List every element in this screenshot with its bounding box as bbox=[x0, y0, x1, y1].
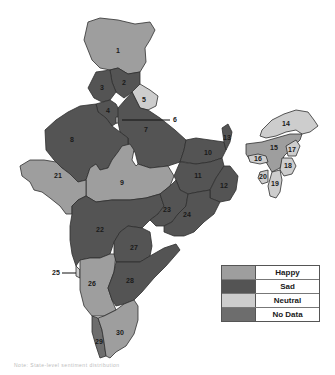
state-label-14: 14 bbox=[282, 120, 290, 127]
state-label-13: 13 bbox=[223, 134, 231, 141]
state-label-15: 15 bbox=[270, 144, 278, 151]
legend-swatch-sad bbox=[222, 280, 256, 293]
legend-item-sad: Sad bbox=[222, 279, 319, 293]
legend-label-sad: Sad bbox=[256, 280, 319, 293]
legend-item-happy: Happy bbox=[222, 266, 319, 279]
legend-label-no-data: No Data bbox=[256, 308, 319, 321]
state-label-26: 26 bbox=[88, 280, 96, 287]
state-label-30: 30 bbox=[116, 329, 124, 336]
map-caption: Note: State-level sentiment distribution bbox=[14, 362, 120, 368]
state-label-22: 22 bbox=[96, 226, 104, 233]
state-label-9: 9 bbox=[120, 179, 124, 186]
state-label-8: 8 bbox=[70, 136, 74, 143]
state-label-1: 1 bbox=[116, 47, 120, 54]
state-label-27: 27 bbox=[130, 244, 138, 251]
state-label-7: 7 bbox=[144, 126, 148, 133]
legend-label-happy: Happy bbox=[256, 266, 319, 279]
state-label-12: 12 bbox=[220, 182, 228, 189]
legend-swatch-happy bbox=[222, 266, 256, 279]
state-label-6: 6 bbox=[173, 116, 177, 123]
state-label-3: 3 bbox=[100, 84, 104, 91]
legend: Happy Sad Neutral No Data bbox=[221, 265, 320, 322]
legend-item-neutral: Neutral bbox=[222, 293, 319, 307]
state-label-10: 10 bbox=[204, 149, 212, 156]
state-label-18: 18 bbox=[284, 162, 292, 169]
state-label-16: 16 bbox=[254, 155, 262, 162]
legend-swatch-neutral bbox=[222, 294, 256, 307]
state-region-25 bbox=[76, 266, 80, 278]
state-label-21: 21 bbox=[54, 172, 62, 179]
state-label-28: 28 bbox=[126, 277, 134, 284]
state-label-25: 25 bbox=[52, 269, 60, 276]
state-label-19: 19 bbox=[271, 180, 279, 187]
legend-swatch-no-data bbox=[222, 308, 256, 321]
state-label-20: 20 bbox=[259, 173, 267, 180]
state-label-23: 23 bbox=[163, 206, 171, 213]
legend-item-no-data: No Data bbox=[222, 307, 319, 321]
legend-label-neutral: Neutral bbox=[256, 294, 319, 307]
state-label-5: 5 bbox=[142, 96, 146, 103]
state-label-2: 2 bbox=[122, 79, 126, 86]
state-label-24: 24 bbox=[183, 211, 191, 218]
state-label-29: 29 bbox=[95, 338, 103, 345]
state-label-4: 4 bbox=[106, 107, 110, 114]
state-label-17: 17 bbox=[288, 146, 296, 153]
state-label-11: 11 bbox=[194, 172, 202, 179]
